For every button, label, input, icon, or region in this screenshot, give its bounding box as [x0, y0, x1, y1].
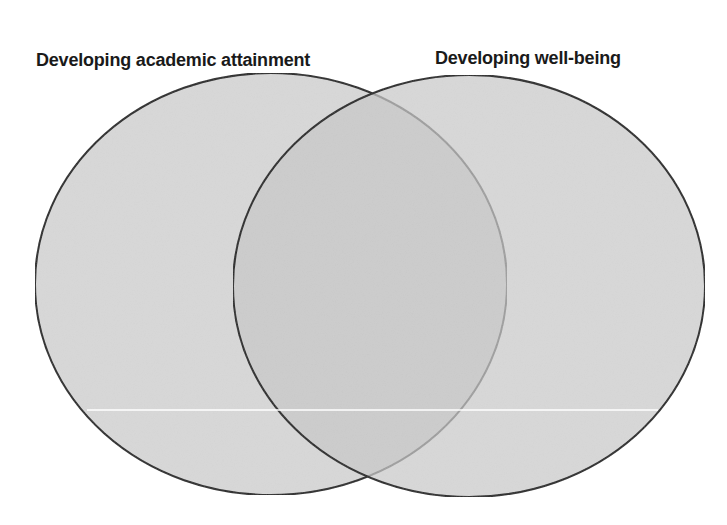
venn-circle-well-being [233, 75, 705, 497]
venn-diagram [0, 0, 727, 525]
set-label-academic-attainment: Developing academic attainment [36, 50, 310, 71]
set-label-well-being: Developing well-being [435, 48, 621, 69]
